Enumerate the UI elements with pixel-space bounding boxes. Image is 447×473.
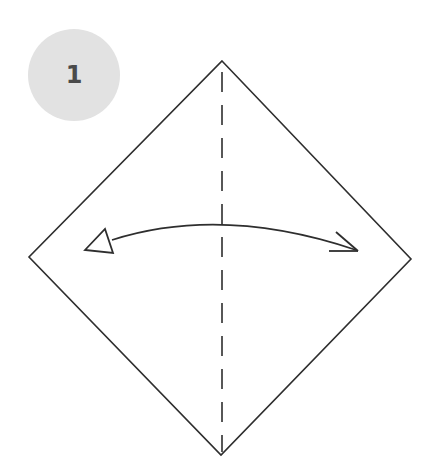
origami-diagram (0, 0, 447, 473)
fold-unfold-arrow-arc (112, 225, 356, 250)
arrowhead-right-open-icon (329, 232, 358, 251)
arrowhead-left-hollow-icon (85, 229, 113, 253)
paper-square-outline (29, 61, 411, 455)
